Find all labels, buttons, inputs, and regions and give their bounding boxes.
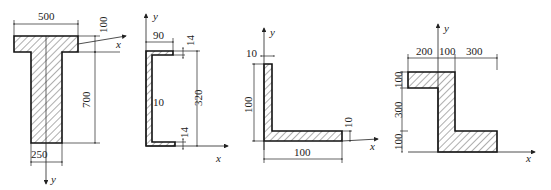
dim-250: 250: [31, 148, 48, 160]
figure-angle-section: y x 10 100 100 10: [242, 26, 378, 163]
y-axis-label: y: [152, 10, 158, 22]
dim-10-leg: 10: [246, 47, 258, 59]
dim-100-horizontal: 100: [294, 146, 311, 158]
dim-100-bottom: 100: [392, 133, 404, 150]
dim-200: 200: [416, 45, 433, 57]
angle-section-shape: [264, 64, 342, 141]
dim-90: 90: [153, 29, 165, 41]
y-axis-label: y: [50, 173, 56, 185]
dim-300: 300: [466, 45, 483, 57]
y-axis-label: y: [443, 22, 449, 34]
dim-700: 700: [80, 91, 92, 108]
y-axis-label: y: [269, 26, 275, 38]
dim-500: 500: [38, 10, 55, 22]
z-section-shape: [408, 72, 497, 152]
dim-10-web: 10: [153, 96, 165, 108]
x-axis-label: x: [215, 152, 221, 164]
figure-t-section: 500 x 100 700 250 y: [14, 10, 126, 185]
dim-100-vertical: 100: [242, 96, 254, 113]
x-axis-label: x: [115, 38, 121, 50]
dim-100-top: 100: [392, 71, 404, 88]
figure-channel-section: y x 90 14 320 10 14: [146, 10, 228, 164]
cross-sections-diagram: 500 x 100 700 250 y y x 90 14: [0, 0, 551, 190]
dim-100-web: 100: [439, 45, 456, 57]
figure-z-section: y x 200 100 300 100 300 100: [392, 22, 535, 164]
dim-14-bottom: 14: [178, 127, 190, 139]
dim-100: 100: [97, 16, 109, 33]
dim-300-web: 300: [392, 101, 404, 118]
x-axis-label: x: [525, 152, 531, 164]
dim-14-top: 14: [184, 35, 196, 47]
x-axis-label: x: [369, 140, 375, 152]
dim-320: 320: [192, 89, 204, 106]
dim-10-horizontal: 10: [342, 117, 354, 129]
